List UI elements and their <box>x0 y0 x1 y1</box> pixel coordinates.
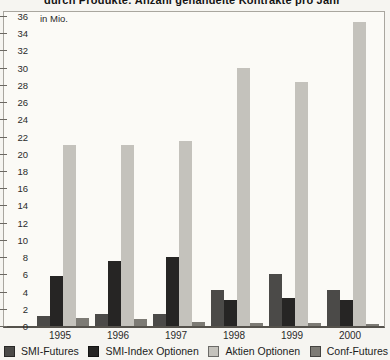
tick-dash <box>0 50 7 51</box>
bar-conf-futures-1995 <box>76 318 89 326</box>
legend-item-aktien-optionen: Aktien Optionen <box>208 345 300 357</box>
tick-dash <box>0 292 7 293</box>
tick-label: 4 <box>11 287 28 298</box>
bar-aktien-optionen-1996 <box>121 145 134 326</box>
bar-conf-futures-1997 <box>192 322 205 326</box>
tick-dash <box>0 188 7 189</box>
year-label-1995: 1995 <box>49 330 71 341</box>
chart-screenshot: durch Produkte: Anzahl gehandelte Kontra… <box>0 0 390 360</box>
bar-smi-index-optionen-1998 <box>224 300 237 326</box>
tick-label: 24 <box>11 114 28 125</box>
bar-smi-futures-1996 <box>95 314 108 326</box>
tick-dash <box>0 274 7 275</box>
bar-conf-futures-1998 <box>250 323 263 326</box>
tick-label: 28 <box>11 80 28 91</box>
tick-label: 36 <box>11 11 28 22</box>
tick-label: 26 <box>11 97 28 108</box>
bar-smi-futures-1997 <box>153 314 166 326</box>
legend-label: SMI-Futures <box>21 345 79 357</box>
tick-dash <box>0 223 7 224</box>
tick-dash <box>0 68 7 69</box>
bar-smi-index-optionen-1995 <box>50 276 63 326</box>
tick-label: 6 <box>11 269 28 280</box>
legend-item-smi-futures: SMI-Futures <box>4 345 79 357</box>
tick-dash <box>0 16 7 17</box>
tick-label: 20 <box>11 149 28 160</box>
chart-title: durch Produkte: Anzahl gehandelte Kontra… <box>44 0 388 6</box>
bar-aktien-optionen-1995 <box>63 145 76 326</box>
plot-area: in Mio. 02468101214161820222426283032343… <box>3 11 385 328</box>
y-axis-unit-label: in Mio. <box>40 13 68 24</box>
legend-label: Aktien Optionen <box>225 345 300 357</box>
tick-label: 14 <box>11 200 28 211</box>
bar-smi-index-optionen-1999 <box>282 298 295 326</box>
legend: SMI-Futures SMI-Index Optionen Aktien Op… <box>4 344 388 358</box>
bar-aktien-optionen-1998 <box>237 68 250 326</box>
year-label-1996: 1996 <box>107 330 129 341</box>
tick-label: 16 <box>11 183 28 194</box>
bar-smi-index-optionen-1997 <box>166 257 179 326</box>
year-label-1998: 1998 <box>223 330 245 341</box>
tick-dash <box>0 33 7 34</box>
smi-index-optionen-swatch-icon <box>88 346 99 357</box>
tick-dash <box>0 119 7 120</box>
tick-dash <box>0 240 7 241</box>
tick-label: 18 <box>11 166 28 177</box>
tick-dash <box>0 205 7 206</box>
tick-label: 2 <box>11 304 28 315</box>
year-label-1997: 1997 <box>165 330 187 341</box>
bar-conf-futures-2000 <box>366 324 379 326</box>
tick-label: 34 <box>11 28 28 39</box>
smi-futures-swatch-icon <box>4 346 15 357</box>
bar-conf-futures-1999 <box>308 323 321 326</box>
tick-label: 22 <box>11 132 28 143</box>
legend-item-smi-index-optionen: SMI-Index Optionen <box>88 345 198 357</box>
bar-smi-futures-1998 <box>211 290 224 326</box>
tick-dash <box>0 326 7 327</box>
legend-item-conf-futures: Conf-Futures <box>310 345 388 357</box>
year-label-1999: 1999 <box>281 330 303 341</box>
aktien-optionen-swatch-icon <box>208 346 219 357</box>
legend-label: Conf-Futures <box>327 345 388 357</box>
tick-dash <box>0 102 7 103</box>
year-label-2000: 2000 <box>339 330 361 341</box>
tick-label: 8 <box>11 252 28 263</box>
tick-dash <box>0 257 7 258</box>
legend-label: SMI-Index Optionen <box>105 345 198 357</box>
tick-label: 12 <box>11 218 28 229</box>
tick-dash <box>0 171 7 172</box>
tick-label: 10 <box>11 235 28 246</box>
tick-dash <box>0 137 7 138</box>
bar-aktien-optionen-2000 <box>353 22 366 326</box>
conf-futures-swatch-icon <box>310 346 321 357</box>
tick-dash <box>0 85 7 86</box>
bar-smi-futures-1995 <box>37 316 50 326</box>
bar-smi-index-optionen-2000 <box>340 300 353 326</box>
tick-dash <box>0 309 7 310</box>
tick-dash <box>0 154 7 155</box>
bar-smi-index-optionen-1996 <box>108 261 121 326</box>
bar-aktien-optionen-1999 <box>295 82 308 326</box>
bar-aktien-optionen-1997 <box>179 141 192 326</box>
x-axis-labels: 199519961997199819992000 <box>3 330 385 342</box>
tick-label: 32 <box>11 45 28 56</box>
tick-label: 30 <box>11 63 28 74</box>
bar-smi-futures-1999 <box>269 274 282 326</box>
bar-smi-futures-2000 <box>327 290 340 326</box>
bar-conf-futures-1996 <box>134 319 147 326</box>
